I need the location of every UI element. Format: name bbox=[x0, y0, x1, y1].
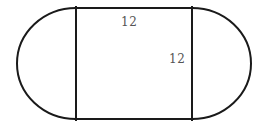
geometry-figure: 12 12 bbox=[0, 0, 259, 127]
dimension-label-right: 12 bbox=[169, 53, 185, 65]
left-semicircle-arc bbox=[17, 8, 76, 119]
right-semicircle-arc bbox=[192, 8, 251, 119]
dimension-label-top: 12 bbox=[121, 16, 137, 28]
